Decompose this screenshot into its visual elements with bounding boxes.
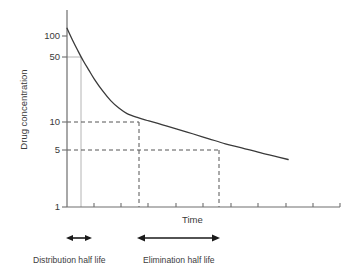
y-tick-label-50: 50: [36, 52, 60, 62]
distribution-half-life-arrow: [66, 235, 92, 241]
figure-root: 100 50 10 5 1 Drug concentration Time Di…: [0, 0, 345, 274]
pharmacokinetics-chart: 100 50 10 5 1 Drug concentration Time Di…: [0, 0, 345, 274]
elimination-half-life-arrow: [137, 235, 220, 242]
y-tick-label-10: 10: [36, 117, 60, 127]
x-axis-title: Time: [182, 215, 203, 225]
y-tick-label-100: 100: [36, 31, 60, 41]
y-tick-label-5: 5: [36, 145, 60, 155]
y-axis-title: Drug concentration: [18, 45, 29, 175]
y-tick-label-1: 1: [36, 202, 60, 212]
elimination-half-life-label: Elimination half life: [143, 256, 215, 265]
chart-canvas: [0, 0, 345, 274]
distribution-half-life-label: Distribution half life: [33, 256, 106, 265]
concentration-curve: [67, 28, 288, 159]
